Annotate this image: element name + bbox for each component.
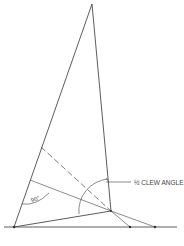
clew-bisector-dashed-line — [41, 147, 111, 211]
tack-point — [13, 226, 15, 228]
clew-extension-line-1 — [111, 211, 130, 227]
clew-angle-arc — [79, 179, 108, 214]
half-clew-angle-label: ½ CLEW ANGLE — [134, 179, 184, 186]
baseline-point-2 — [154, 226, 156, 228]
baseline-point-1 — [129, 226, 131, 228]
right-angle-label: 90° — [30, 195, 41, 204]
clew-extension-line-2 — [111, 211, 155, 227]
luff-perpendicular-line — [30, 180, 111, 211]
clew-point — [110, 210, 112, 212]
luff-line — [14, 4, 92, 227]
sail-clew-angle-diagram: ½ CLEW ANGLE 90° — [0, 0, 184, 246]
foot-line — [14, 211, 111, 227]
